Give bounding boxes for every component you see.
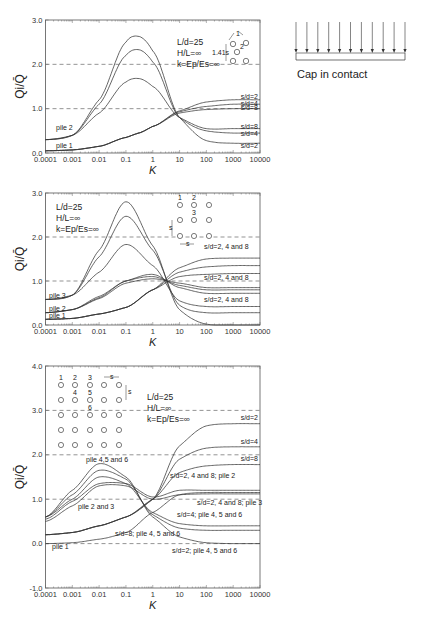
parameter-text: L/d=25 xyxy=(56,202,83,212)
pile-icon xyxy=(72,442,77,447)
x-tick-label: 1000 xyxy=(225,590,242,599)
annotation: s/d=2; pile 4, 5 and 6 xyxy=(172,547,237,555)
pile-icon xyxy=(116,397,121,402)
y-axis-label: Qi/Q̄ xyxy=(13,74,27,99)
annotation: s/d=8 xyxy=(241,455,258,462)
y-axis-label: Qi/Q̄ xyxy=(13,247,27,272)
x-tick-label: 10 xyxy=(175,590,183,599)
figure-canvas: 0.01.02.03.00.00010.0010.010.11101001000… xyxy=(0,0,421,620)
dimension-line xyxy=(229,33,234,40)
data-series xyxy=(46,277,261,313)
diagram-label: 3 xyxy=(88,374,92,381)
x-tick-label: 1000 xyxy=(225,155,242,164)
pile-icon xyxy=(101,427,106,432)
cap-in-contact-diagram: Cap in contact xyxy=(294,22,406,80)
pile-icon xyxy=(58,382,63,387)
pile-icon xyxy=(87,412,92,417)
arrow-head-icon xyxy=(403,49,406,53)
annotation: s/d=4 xyxy=(241,130,258,137)
data-series xyxy=(46,104,261,151)
diagram-label: s xyxy=(128,388,132,395)
x-tick-label: 0.001 xyxy=(63,155,82,164)
annotation: s/d=2, 4 and 8; pile 2 xyxy=(170,472,235,480)
pile-icon xyxy=(191,217,196,222)
annotation: pile 4,5 and 6 xyxy=(86,456,128,464)
x-axis-label: K xyxy=(149,164,157,176)
annotation: s/d=2, 4 and 8 xyxy=(204,274,249,281)
y-tick-label: 1.0 xyxy=(32,277,42,286)
x-axis-label: K xyxy=(149,336,157,348)
x-tick-label: 10000 xyxy=(250,155,271,164)
diagram-label: 6 xyxy=(88,404,92,411)
y-tick-label: 0.0 xyxy=(32,539,42,548)
pile-icon xyxy=(72,397,77,402)
data-series xyxy=(46,424,261,535)
parameter-text: k=Ep/Es=∞ xyxy=(147,414,190,424)
chart-panel-bottom: -1.00.01.02.03.04.00.00010.0010.010.1110… xyxy=(13,362,270,612)
diagram-label: 5 xyxy=(88,389,92,396)
pile-icon xyxy=(116,412,121,417)
diagram-label: 1.41s xyxy=(212,49,230,56)
diagram-label: 3 xyxy=(192,209,196,216)
arrow-head-icon xyxy=(360,49,363,53)
x-tick-label: 0.0001 xyxy=(34,590,57,599)
x-tick-label: 0.1 xyxy=(121,155,131,164)
pile-icon xyxy=(206,233,211,238)
annotation: s/d=2, 4 and 8 xyxy=(204,243,249,250)
y-tick-label: 2.0 xyxy=(32,233,42,242)
x-tick-label: 0.001 xyxy=(63,327,82,336)
arrow-head-icon xyxy=(294,49,297,53)
chart-panel-top: 0.01.02.03.00.00010.0010.010.11101001000… xyxy=(13,16,270,177)
annotation: s/d=4; pile 4, 5 and 6 xyxy=(177,511,242,519)
pile-icon xyxy=(58,412,63,417)
pile-icon xyxy=(177,233,182,238)
y-tick-label: 3.0 xyxy=(32,406,42,415)
diagram-label: s xyxy=(110,373,114,380)
pile-icon xyxy=(58,427,63,432)
diagram-label: 2 xyxy=(192,194,196,201)
arrow-head-icon xyxy=(349,49,352,53)
pile-icon xyxy=(243,58,248,63)
annotation: s/d=2, 4 and 8; pile 3 xyxy=(197,499,262,507)
y-tick-label: 1.0 xyxy=(32,104,42,113)
x-tick-label: 0.1 xyxy=(121,327,131,336)
pile-icon xyxy=(101,397,106,402)
x-tick-label: 1000 xyxy=(225,327,242,336)
arrow-head-icon xyxy=(305,49,308,53)
arrow-head-icon xyxy=(338,49,341,53)
diagram-label: 2 xyxy=(73,374,77,381)
annotation: s/d=8; pile 4, 5 and 6 xyxy=(115,530,180,538)
x-tick-label: 10 xyxy=(175,155,183,164)
parameter-text: H/L=∞ xyxy=(56,213,80,223)
pile-icon xyxy=(230,41,235,46)
pile-icon xyxy=(243,40,248,45)
diagram-label: 1 xyxy=(178,194,182,201)
pile-icon xyxy=(101,412,106,417)
diagram-label: 2 xyxy=(240,43,244,50)
pile-icon xyxy=(101,442,106,447)
x-tick-label: 0.01 xyxy=(92,590,107,599)
pile-icon xyxy=(177,217,182,222)
x-tick-label: 0.001 xyxy=(63,590,82,599)
annotation: pile 2 and 3 xyxy=(78,503,114,511)
pile-icon xyxy=(191,233,196,238)
y-tick-label: 1.0 xyxy=(32,495,42,504)
x-tick-label: 0.0001 xyxy=(34,327,57,336)
diagram-label: 1 xyxy=(59,374,63,381)
diagram-label: s xyxy=(169,224,173,231)
pile-icon xyxy=(230,58,235,63)
x-tick-label: 1 xyxy=(151,327,155,336)
arrow-head-icon xyxy=(393,49,396,53)
pile-icon xyxy=(87,442,92,447)
annotation: pile 3 xyxy=(49,292,66,300)
annotation: s/d=8 xyxy=(241,123,258,130)
x-tick-label: 0.01 xyxy=(92,155,107,164)
arrow-head-icon xyxy=(316,49,319,53)
pile-icon xyxy=(72,382,77,387)
annotation: pile 1 xyxy=(52,543,69,551)
y-tick-label: 4.0 xyxy=(32,362,42,371)
x-tick-label: 100 xyxy=(200,327,213,336)
pile-icon xyxy=(116,427,121,432)
x-tick-label: 100 xyxy=(200,155,213,164)
parameter-text: H/L=∞ xyxy=(147,403,171,413)
